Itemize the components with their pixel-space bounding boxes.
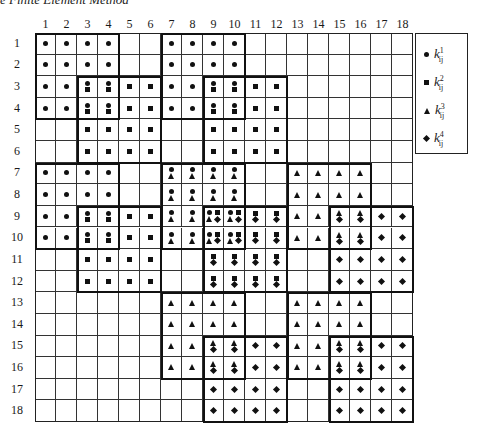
matrix-cell [350,76,371,98]
matrix-cell [224,336,245,358]
matrix-cell [329,76,350,98]
triangle-icon [315,192,321,198]
matrix-cell [119,249,140,271]
matrix-cell [182,206,203,228]
square-icon [106,279,111,284]
row-label: 12 [6,274,28,289]
matrix-cell [161,292,182,314]
matrix-cell [35,55,56,77]
matrix-cell [266,76,287,98]
matrix-cell [140,98,161,120]
square-icon [274,106,279,111]
matrix-cell [287,400,308,422]
matrix-cell [98,184,119,206]
diamond-icon [377,256,384,263]
matrix-cell [266,141,287,163]
matrix-cell [77,76,98,98]
matrix-cell [245,228,266,250]
legend-label: k2ij [434,74,443,92]
row-label: 1 [6,36,28,51]
matrix-cell [56,336,77,358]
matrix-cell [119,206,140,228]
diamond-icon [209,280,216,287]
matrix-cell [119,184,140,206]
matrix-cell [224,249,245,271]
diamond-icon [398,386,405,393]
dot-icon [43,192,48,197]
matrix-cell [371,76,392,98]
diamond-icon [398,213,405,220]
diamond-icon [356,238,363,245]
diamond-icon [377,234,384,241]
dot-icon [106,62,111,67]
column-label: 17 [371,17,392,32]
matrix-cell [119,119,140,141]
matrix-cell [224,76,245,98]
matrix-cell [392,379,413,401]
matrix-cell [203,163,224,185]
matrix-cell [245,98,266,120]
matrix-cell [98,228,119,250]
matrix-cell [161,379,182,401]
matrix-cell [56,400,77,422]
diamond-icon [251,237,258,244]
matrix-cell [392,55,413,77]
triangle-icon [294,192,300,198]
matrix-cell [371,228,392,250]
matrix-cell [119,379,140,401]
diamond-icon [272,364,279,371]
matrix-cell [371,357,392,379]
diamond-icon [251,386,258,393]
dot-icon [106,232,111,237]
diamond-icon [214,237,221,244]
matrix-cell [392,206,413,228]
matrix-cell [77,184,98,206]
matrix-cell [287,206,308,228]
matrix-cell [392,184,413,206]
matrix-cell [140,119,161,141]
diamond-icon [398,342,405,349]
matrix-cell [35,400,56,422]
matrix-cell [308,163,329,185]
square-icon [232,87,237,92]
dot-icon [169,84,174,89]
dot-icon [232,103,237,108]
triangle-icon [294,343,300,349]
matrix-cell [77,141,98,163]
square-icon [106,149,111,154]
column-label: 2 [56,17,77,32]
matrix-cell [224,98,245,120]
matrix-cell [35,357,56,379]
matrix-cell [56,141,77,163]
diamond-icon [230,346,237,353]
square-icon [274,127,279,132]
matrix-cell [308,206,329,228]
matrix-cell [119,76,140,98]
matrix-cell [245,292,266,314]
matrix-cell [266,336,287,358]
matrix-cell [119,292,140,314]
page-title: e Finite Element Method [0,0,129,8]
matrix-cell [56,76,77,98]
dot-icon [211,167,216,172]
matrix-cell [266,357,287,379]
triangle-icon [168,343,174,349]
column-label: 5 [119,17,140,32]
matrix-cell [35,163,56,185]
triangle-icon [189,321,195,327]
triangle-icon [227,238,233,244]
matrix-cell [56,357,77,379]
triangle-icon [227,216,233,222]
triangle-icon [189,238,195,244]
matrix-cell [35,33,56,55]
matrix-cell [392,292,413,314]
matrix-cell [245,119,266,141]
matrix-cell [224,379,245,401]
matrix-cell [287,336,308,358]
diamond-icon [335,407,342,414]
matrix-cell [140,33,161,55]
diamond-icon [251,342,258,349]
dot-icon [64,170,69,175]
dot-icon [228,232,233,237]
square-icon [253,84,258,89]
